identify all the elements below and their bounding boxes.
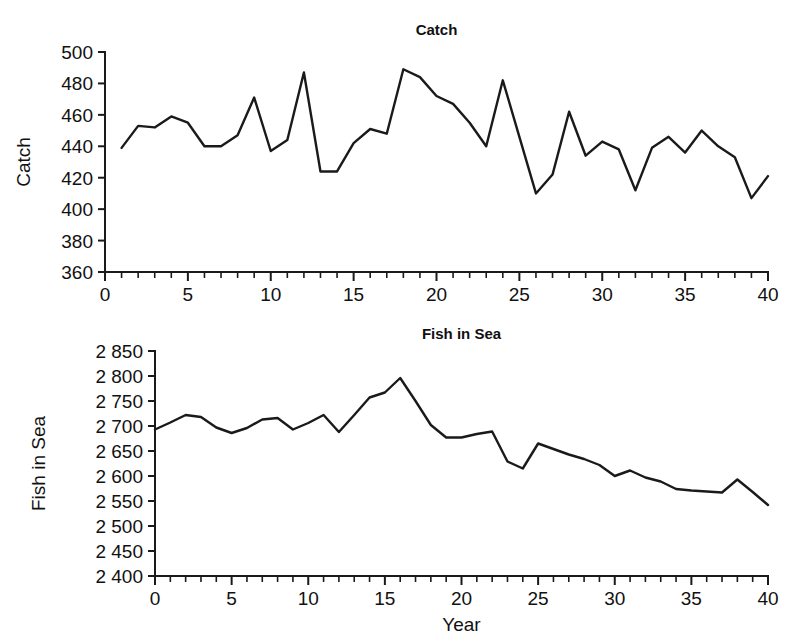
x-axis-tick-label: 20 [426, 284, 447, 305]
data-series-line [122, 69, 768, 198]
y-axis-tick-label: 2 850 [95, 341, 143, 362]
fish-in-sea-line-chart: Fish in Sea2 4002 4502 5002 5502 6002 65… [0, 321, 794, 642]
x-axis-tick-label: 25 [528, 588, 549, 609]
x-axis-title: Year [442, 614, 481, 635]
x-axis-tick-label: 30 [604, 588, 625, 609]
y-axis-tick-label: 2 450 [95, 541, 143, 562]
chart-title: Catch [416, 21, 458, 38]
x-axis-tick-label: 20 [451, 588, 472, 609]
catch-line-chart: Catch36038040042044046048050005101520253… [0, 0, 794, 321]
y-axis-tick-label: 460 [61, 105, 93, 126]
x-axis-tick-label: 10 [298, 588, 319, 609]
x-axis-tick-label: 10 [260, 284, 281, 305]
chart-title: Fish in Sea [422, 325, 502, 342]
y-axis-tick-label: 420 [61, 168, 93, 189]
y-axis-tick-label: 2 650 [95, 441, 143, 462]
x-axis-tick-label: 5 [226, 588, 237, 609]
data-series-line [155, 378, 768, 505]
x-axis-tick-label: 25 [509, 284, 530, 305]
x-axis-tick-label: 30 [592, 284, 613, 305]
y-axis-title: Fish in Sea [28, 416, 49, 511]
x-axis-tick-label: 40 [757, 588, 778, 609]
y-axis-tick-label: 360 [61, 262, 93, 283]
y-axis-tick-label: 480 [61, 73, 93, 94]
y-axis-tick-label: 2 700 [95, 416, 143, 437]
chart-panel-catch: Catch36038040042044046048050005101520253… [0, 0, 794, 321]
x-axis-tick-label: 15 [374, 588, 395, 609]
y-axis-tick-label: 2 600 [95, 466, 143, 487]
y-axis-tick-label: 400 [61, 199, 93, 220]
figure-page: Catch36038040042044046048050005101520253… [0, 0, 794, 642]
x-axis-tick-label: 0 [150, 588, 161, 609]
y-axis-tick-label: 2 500 [95, 516, 143, 537]
y-axis-tick-label: 2 750 [95, 391, 143, 412]
x-axis-tick-label: 15 [343, 284, 364, 305]
y-axis-tick-label: 500 [61, 42, 93, 63]
y-axis-tick-label: 440 [61, 136, 93, 157]
y-axis-title: Catch [13, 137, 34, 187]
x-axis-tick-label: 35 [675, 284, 696, 305]
x-axis-tick-label: 0 [100, 284, 111, 305]
y-axis-tick-label: 380 [61, 231, 93, 252]
x-axis-tick-label: 5 [183, 284, 194, 305]
x-axis-tick-label: 35 [681, 588, 702, 609]
chart-panel-fish-in-sea: Fish in Sea2 4002 4502 5002 5502 6002 65… [0, 321, 794, 642]
y-axis-tick-label: 2 800 [95, 366, 143, 387]
y-axis-tick-label: 2 550 [95, 491, 143, 512]
x-axis-tick-label: 40 [757, 284, 778, 305]
y-axis-tick-label: 2 400 [95, 566, 143, 587]
